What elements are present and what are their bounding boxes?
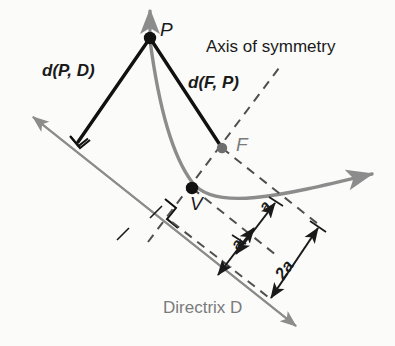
measure-arrow-a-lower	[218, 228, 254, 275]
directrix-line	[33, 117, 296, 326]
label-point-f: F	[236, 135, 248, 154]
segment-p-to-directrix	[78, 38, 150, 142]
point-f-marker	[217, 143, 227, 153]
parabola-diagram: P F V d(P, D) d(F, P) Axis of symmetry D…	[0, 0, 395, 346]
point-p-marker	[144, 32, 156, 44]
diagram-canvas	[0, 0, 395, 346]
label-distance-p-d: d(P, D)	[42, 62, 95, 79]
dashed-helper-directrix-line	[172, 222, 272, 300]
label-point-p: P	[160, 20, 173, 39]
label-axis-of-symmetry: Axis of symmetry	[206, 38, 335, 55]
parabola-curve	[150, 40, 372, 198]
label-point-v: V	[190, 194, 203, 213]
label-distance-f-p: d(F, P)	[188, 74, 239, 91]
label-directrix: Directrix D	[163, 299, 242, 316]
